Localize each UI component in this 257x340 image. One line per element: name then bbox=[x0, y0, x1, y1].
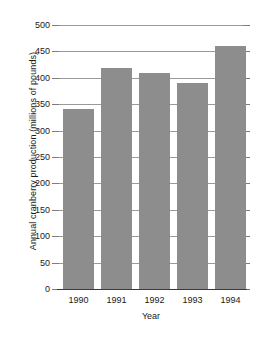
bar-1992 bbox=[139, 25, 170, 289]
bar-rect bbox=[63, 109, 94, 289]
bar-1993 bbox=[177, 25, 208, 289]
bar-1990 bbox=[63, 25, 94, 289]
x-axis-title: Year bbox=[57, 311, 245, 321]
y-axis-tick-label: 500 bbox=[35, 20, 50, 30]
x-axis-line bbox=[57, 289, 247, 290]
y-axis-tick-label: 250 bbox=[35, 152, 50, 162]
y-axis-tick-label: 450 bbox=[35, 46, 50, 56]
plot-area: 050100150200250300350400450500 199019911… bbox=[57, 25, 245, 289]
bar-1994 bbox=[215, 25, 246, 289]
bar-rect bbox=[101, 68, 132, 289]
bar-rect bbox=[215, 46, 246, 289]
y-axis-tick-label: 400 bbox=[35, 73, 50, 83]
bar-1991 bbox=[101, 25, 132, 289]
y-axis-tick-label: 300 bbox=[35, 126, 50, 136]
bars-group bbox=[57, 25, 245, 289]
bar-chart-figure: Annual cranberry production (millions of… bbox=[0, 0, 257, 340]
y-axis-tick-label: 50 bbox=[40, 258, 50, 268]
x-axis-tick-label: 1994 bbox=[209, 295, 253, 305]
y-axis-tick-label: 350 bbox=[35, 99, 50, 109]
y-axis-tick-label: 150 bbox=[35, 205, 50, 215]
y-axis-tick-label: 100 bbox=[35, 231, 50, 241]
y-axis-tick-label: 0 bbox=[45, 284, 50, 294]
bar-rect bbox=[177, 83, 208, 289]
y-axis-tick-label: 200 bbox=[35, 178, 50, 188]
bar-rect bbox=[139, 73, 170, 289]
